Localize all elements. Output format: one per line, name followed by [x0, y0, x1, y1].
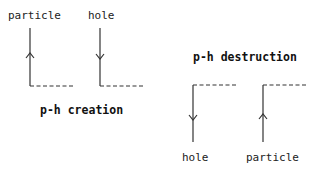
destruction-title: p-h destruction — [193, 52, 297, 64]
creation-particle-leg — [26, 28, 73, 86]
destruction-particle-leg — [259, 85, 306, 142]
creation-hole-label: hole — [88, 10, 115, 21]
diagram-canvas — [0, 0, 320, 173]
destruction-hole-label: hole — [182, 152, 209, 163]
destruction-hole-leg — [189, 85, 236, 142]
creation-title: p-h creation — [40, 105, 123, 117]
destruction-particle-label: particle — [246, 152, 299, 163]
creation-hole-leg — [96, 28, 143, 86]
creation-particle-label: particle — [8, 10, 61, 21]
